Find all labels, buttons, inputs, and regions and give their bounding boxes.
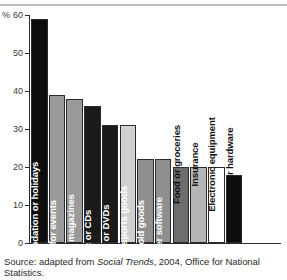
top-rule-divider [0,4,287,6]
bar-chart: % 0102030405060 Travel, accommodation or… [0,8,287,248]
y-axis-tick-label: 10 [0,200,23,210]
chart-bar: Computer software [155,159,172,243]
chart-bar: Tickets for events [49,95,66,243]
chart-bar: Music or CDs [84,106,101,243]
chart-bar: Household goods [137,159,154,243]
y-axis-tick-label: 40 [0,86,23,96]
chart-bar-label: Electronic equipment [207,117,217,212]
y-axis-tick-label: 20 [0,162,23,172]
source-prefix: Source: adapted from [4,256,97,267]
chart-bar-label: Computer hardware [224,128,234,216]
y-axis-tick-label: 30 [0,124,23,134]
chart-bar: Books or magazines [66,99,83,243]
chart-bar: Travel, accommodation or holidays [31,19,48,243]
y-axis-tick-label: 60 [0,10,23,20]
y-axis-tick-label: 50 [0,48,23,58]
y-axis-tick-label: 0 [0,238,23,248]
chart-bar-label: Food or groceries [171,124,181,203]
plot-area: Travel, accommodation or holidaysTickets… [30,15,281,243]
chart-bar-label: Insurance [189,142,199,186]
source-publication: Social Trends [97,256,154,267]
chart-bar: Videos or DVDs [102,125,119,243]
source-note: Source: adapted from Social Trends, 2004… [4,256,284,278]
